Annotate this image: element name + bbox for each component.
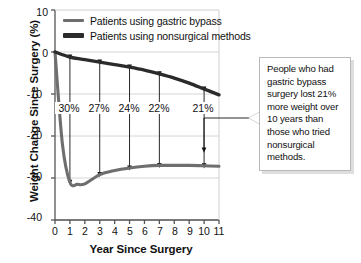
callout-line: more weight — [267, 101, 318, 112]
legend-swatch-icon — [63, 33, 84, 38]
callout-line: People who had — [267, 63, 334, 74]
data-series — [55, 52, 219, 186]
gap-arrows — [70, 57, 204, 182]
chart-container: Weight Change Since Surgery (%) Year Sin… — [0, 0, 361, 263]
callout-line: gastric bypass — [267, 76, 326, 87]
callout-pointer-line — [204, 118, 249, 150]
callout-line: methods. — [267, 151, 305, 162]
gap-label: 22% — [145, 102, 173, 114]
gridlines — [55, 52, 219, 220]
gap-label: 21% — [189, 102, 217, 114]
chart-legend: Patients using gastric bypass Patients u… — [63, 13, 251, 43]
legend-label: Patients using gastric bypass — [90, 15, 222, 27]
callout-annotation: People who had gastric bypass surgery lo… — [259, 57, 351, 171]
legend-item-nonsurgical: Patients using nonsurgical methods — [63, 28, 251, 43]
gap-label: 30% — [55, 102, 83, 114]
gap-label: 27% — [85, 102, 113, 114]
legend-swatch-icon — [63, 19, 84, 23]
legend-item-gastric-bypass: Patients using gastric bypass — [63, 13, 251, 28]
legend-label: Patients using nonsurgical methods — [90, 30, 251, 42]
callout-line: surgery lost 21% — [267, 88, 336, 99]
gap-label: 24% — [115, 102, 143, 114]
